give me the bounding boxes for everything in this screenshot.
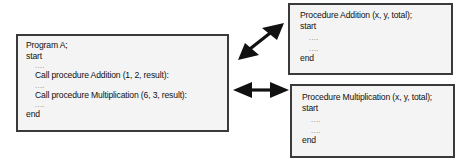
double-arrow-horizontal-icon [233, 82, 289, 98]
connector-arrows [0, 0, 468, 164]
double-arrow-diagonal-icon [238, 23, 284, 60]
